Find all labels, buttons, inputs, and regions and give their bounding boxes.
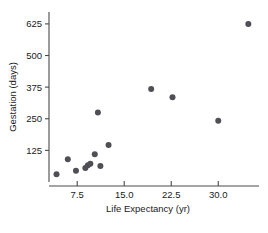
x-axis-title: Life Expectancy (yr)	[106, 203, 190, 214]
data-point	[148, 86, 154, 92]
data-point	[215, 118, 221, 124]
chart-canvas: 1252503755006257.515.022.530.0Life Expec…	[0, 0, 268, 233]
y-tick-label: 125	[26, 145, 42, 156]
y-tick-label: 625	[26, 18, 42, 29]
x-tick-label: 15.0	[115, 189, 134, 200]
data-point	[65, 156, 71, 162]
data-point	[54, 171, 60, 177]
data-point	[87, 161, 93, 167]
x-tick-label: 7.5	[71, 189, 84, 200]
data-point	[92, 151, 98, 157]
x-tick-label: 22.5	[162, 189, 181, 200]
data-point	[169, 94, 175, 100]
data-point	[95, 109, 101, 115]
data-point-group	[54, 21, 252, 177]
y-axis-title: Gestation (days)	[7, 62, 18, 132]
y-tick-label: 375	[26, 82, 42, 93]
y-tick-label: 500	[26, 50, 42, 61]
data-point	[73, 168, 79, 174]
y-tick-label: 250	[26, 113, 42, 124]
data-point	[245, 21, 251, 27]
data-point	[106, 142, 112, 148]
x-tick-label: 30.0	[209, 189, 228, 200]
scatter-plot-figure: 1252503755006257.515.022.530.0Life Expec…	[0, 0, 268, 233]
data-point	[97, 163, 103, 169]
